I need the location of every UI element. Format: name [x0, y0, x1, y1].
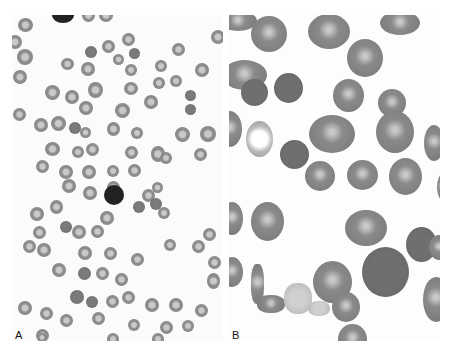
red-cell — [36, 160, 49, 173]
red-cell — [251, 202, 284, 241]
red-cell — [78, 246, 92, 260]
fragmented-cell — [308, 301, 330, 316]
red-cell — [208, 256, 221, 269]
red-cell — [153, 77, 165, 89]
red-cell — [62, 179, 76, 193]
nucleated-cell — [104, 185, 124, 205]
red-cell — [175, 127, 190, 142]
red-cell — [308, 15, 350, 49]
red-cell — [106, 295, 119, 308]
nucleated-cell — [52, 15, 74, 23]
red-cell — [37, 243, 51, 257]
red-cell — [102, 40, 115, 53]
red-cell — [86, 143, 99, 156]
red-cell — [33, 226, 46, 239]
red-cell — [81, 62, 95, 76]
red-cell — [107, 122, 120, 136]
red-cell — [144, 95, 158, 109]
red-cell — [164, 239, 176, 251]
red-cell — [207, 273, 220, 289]
red-cell — [88, 82, 103, 98]
red-cell — [362, 247, 409, 297]
red-cell — [192, 240, 205, 253]
red-cell — [152, 333, 164, 341]
panel-b-micrograph — [229, 15, 440, 341]
red-cell — [70, 290, 84, 304]
red-cell — [60, 314, 73, 327]
red-cell — [280, 140, 309, 169]
red-cell — [30, 207, 44, 221]
red-cell — [104, 247, 117, 260]
red-cell — [185, 104, 196, 115]
red-cell — [169, 298, 183, 312]
red-cell — [129, 48, 140, 59]
red-cell — [17, 49, 33, 65]
red-cell — [92, 312, 105, 325]
red-cell — [128, 319, 140, 331]
red-cell — [96, 267, 109, 280]
red-cell — [72, 225, 86, 239]
red-cell — [347, 39, 383, 77]
red-cell — [345, 210, 387, 246]
red-cell — [18, 18, 33, 32]
red-cell — [305, 161, 335, 191]
red-cell — [333, 79, 364, 112]
schistocyte — [257, 295, 285, 313]
panel-b-label: B — [232, 329, 239, 341]
red-cell — [45, 85, 60, 100]
red-cell — [332, 292, 360, 322]
red-cell — [376, 111, 414, 153]
red-cell — [85, 46, 97, 58]
red-cell — [124, 82, 138, 95]
red-cell — [61, 58, 74, 70]
red-cell — [80, 127, 91, 138]
red-cell — [160, 321, 173, 334]
red-cell — [107, 165, 119, 177]
red-cell — [200, 126, 216, 142]
red-cell — [195, 304, 208, 317]
red-cell — [424, 125, 440, 161]
red-cell — [122, 33, 135, 46]
red-cell — [251, 16, 287, 52]
red-cell — [23, 240, 36, 253]
red-cell — [211, 30, 223, 44]
red-cell — [158, 207, 170, 219]
red-cell — [83, 186, 97, 200]
red-cell — [115, 273, 128, 286]
red-cell — [274, 73, 303, 103]
red-cell — [309, 115, 355, 153]
red-cell — [145, 298, 159, 312]
red-cell — [60, 221, 72, 233]
red-cell — [13, 108, 26, 121]
red-cell — [52, 263, 66, 277]
red-cell — [185, 90, 196, 101]
panel-a-micrograph — [12, 15, 223, 341]
red-cell — [40, 307, 53, 320]
red-cell — [82, 165, 96, 179]
red-cell — [172, 43, 185, 56]
red-cell — [125, 64, 137, 76]
red-cell — [229, 111, 242, 147]
red-cell — [229, 257, 243, 287]
red-cell — [37, 333, 47, 341]
red-cell — [182, 320, 194, 332]
red-cell — [229, 202, 243, 235]
red-cell — [99, 15, 113, 22]
red-cell — [338, 324, 367, 341]
red-cell — [18, 301, 32, 315]
red-cell — [128, 164, 141, 177]
red-cell — [133, 201, 145, 213]
red-cell — [423, 277, 440, 322]
red-cell — [91, 225, 104, 238]
target-cell — [246, 121, 273, 157]
red-cell — [12, 35, 22, 49]
red-cell — [86, 296, 98, 308]
red-cell — [131, 253, 144, 266]
red-cell — [155, 60, 167, 72]
red-cell — [160, 152, 172, 164]
red-cell — [100, 211, 114, 225]
red-cell — [51, 116, 66, 131]
red-cell — [34, 118, 48, 132]
red-cell — [45, 142, 60, 156]
red-cell — [107, 333, 119, 341]
